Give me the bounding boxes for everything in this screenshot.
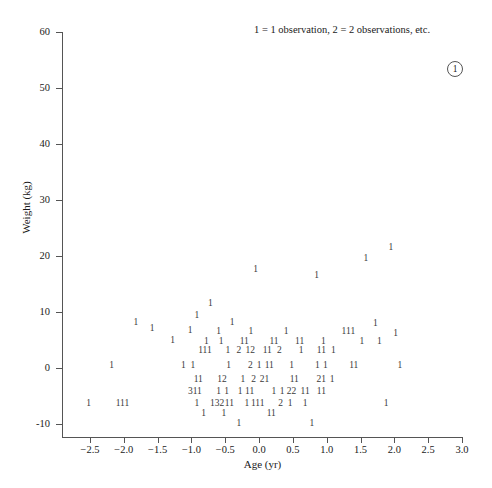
x-axis-title: Age (yr) [62, 459, 463, 470]
legend-note: 1 = 1 observation, 2 = 2 observations, e… [254, 24, 430, 36]
scatter-plot-figure: 6050403020100-10 −2.5−2.0−1.5−1.0−0.50.0… [0, 0, 492, 488]
data-point-glyph: 21 [260, 375, 270, 385]
data-point-glyph: 1 [194, 400, 199, 410]
data-point-glyph: 1 [236, 419, 241, 429]
data-point-glyph: 1 [238, 387, 243, 397]
data-point-glyph: 11 [263, 346, 272, 356]
data-point-glyph: 1 [331, 346, 336, 356]
y-tick-mark [56, 256, 62, 257]
y-tick-label: 20 [0, 251, 50, 262]
data-point-glyph: 2 [248, 362, 253, 372]
data-point-glyph: 1 [219, 337, 224, 347]
y-tick-mark [56, 312, 62, 313]
data-point-glyph: 11 [194, 375, 203, 385]
y-tick-label: 0 [0, 363, 50, 374]
data-point-glyph: 1 [170, 336, 175, 346]
data-point-glyph: 311 [188, 387, 202, 397]
data-point-glyph: 11 [317, 387, 326, 397]
data-point-glyph: 1 [109, 362, 114, 372]
y-tick-label: 60 [0, 27, 50, 38]
y-tick-mark [56, 144, 62, 145]
data-point-glyph: 1 [249, 327, 254, 337]
data-point-glyph: 1 [280, 387, 285, 397]
data-point-glyph: 1 [389, 243, 394, 253]
data-point-glyph: 1 [216, 387, 221, 397]
data-point-glyph: 2 [278, 400, 283, 410]
data-point-glyph: 2 [277, 346, 282, 356]
data-point-glyph: 1 [384, 400, 389, 410]
data-point-glyph: 11 [317, 346, 326, 356]
x-tick-mark [225, 437, 226, 443]
data-point-glyph: 11 [301, 387, 310, 397]
data-point-glyph: 1 [314, 271, 319, 281]
data-point-glyph: 1 [226, 346, 231, 356]
data-point-glyph: 1 [272, 387, 277, 397]
data-point-glyph: 1 [364, 254, 369, 264]
data-point-glyph: 111 [342, 327, 356, 337]
legend-marker-label: 1 [448, 62, 462, 76]
data-point-glyph: 1 [253, 265, 258, 275]
y-tick-mark [56, 88, 62, 89]
data-point-glyph: 11 [245, 387, 254, 397]
data-point-glyph: 1 [222, 409, 227, 419]
data-point-glyph: 21 [317, 375, 327, 385]
data-point-glyph: 1 [288, 400, 293, 410]
y-axis-title: Weight (kg) [21, 163, 32, 253]
x-tick-mark [259, 437, 260, 443]
data-point-glyph: 11 [267, 409, 276, 419]
data-point-glyph: 1 [373, 320, 378, 330]
y-tick-mark [56, 368, 62, 369]
x-tick-mark [90, 437, 91, 443]
data-point-glyph: 12 [246, 346, 256, 356]
data-point-glyph: 111 [198, 346, 212, 356]
x-tick-mark [327, 437, 328, 443]
data-point-glyph: 1 [216, 327, 221, 337]
data-point-glyph: 1 [323, 362, 328, 372]
data-point-glyph: 1 [393, 330, 398, 340]
data-point-glyph: 1 [303, 400, 308, 410]
y-tick-label: 10 [0, 307, 50, 318]
data-point-glyph: 111 [251, 400, 265, 410]
x-tick-mark [293, 437, 294, 443]
x-tick-mark [462, 437, 463, 443]
data-point-glyph: 1 [194, 312, 199, 322]
y-tick-label: 40 [0, 139, 50, 150]
x-tick-mark [428, 437, 429, 443]
data-point-glyph: 2 [251, 375, 256, 385]
data-point-glyph: 1 [397, 362, 402, 372]
data-point-glyph: 2 [236, 346, 241, 356]
data-point-glyph: 1 [315, 362, 320, 372]
y-tick-mark [56, 200, 62, 201]
y-tick-mark [56, 32, 62, 33]
y-tick-mark [56, 424, 62, 425]
y-tick-label: -10 [0, 419, 50, 430]
x-axis-line [62, 437, 463, 438]
data-point-glyph: 12 [217, 375, 227, 385]
data-point-glyph: 1 [134, 318, 139, 328]
data-point-glyph: 11 [290, 375, 299, 385]
data-point-glyph: 1 [208, 299, 213, 309]
data-point-glyph: 1 [240, 375, 245, 385]
data-point-glyph: 1 [257, 362, 262, 372]
data-point-glyph: 11 [265, 362, 274, 372]
data-point-glyph: 1 [289, 362, 294, 372]
data-point-glyph: 1 [245, 400, 250, 410]
x-tick-mark [124, 437, 125, 443]
data-point-glyph: 1 [181, 362, 186, 372]
data-point-glyph: 1 [224, 387, 229, 397]
x-tick-mark [191, 437, 192, 443]
x-tick-label: 3.0 [440, 444, 484, 455]
x-tick-mark [361, 437, 362, 443]
x-tick-mark [158, 437, 159, 443]
data-point-glyph: 1 [226, 362, 231, 372]
data-point-glyph: 1 [299, 346, 304, 356]
data-point-glyph: 1 [309, 419, 314, 429]
data-point-glyph: 11 [349, 362, 358, 372]
data-point-glyph: 1 [284, 327, 289, 337]
data-point-glyph: 1 [188, 326, 193, 336]
legend-marker-circle: 1 [447, 61, 463, 77]
data-point-glyph: 1 [201, 409, 206, 419]
data-point-glyph: 1 [330, 375, 335, 385]
data-point-glyph: 1 [230, 318, 235, 328]
data-point-glyph: 1 [377, 337, 382, 347]
